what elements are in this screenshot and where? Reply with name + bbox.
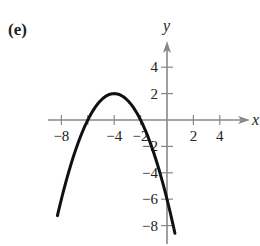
axes: xy <box>48 17 259 244</box>
parabola-plot: xy −8−4−22442−2−4−6−8 <box>0 0 260 246</box>
x-tick-label: 4 <box>216 128 224 144</box>
ticks <box>61 67 219 225</box>
y-tick-label: −4 <box>142 165 158 181</box>
x-tick-label: −4 <box>106 128 122 144</box>
x-tick-label: 2 <box>190 128 198 144</box>
parabola-curve <box>57 94 174 234</box>
y-tick-label: −8 <box>142 218 158 234</box>
y-axis-label: y <box>161 17 171 35</box>
y-tick-label: −6 <box>142 191 158 207</box>
x-axis-label: x <box>251 111 259 128</box>
y-tick-label: 2 <box>151 86 159 102</box>
y-tick-label: 4 <box>151 59 159 75</box>
tick-labels: −8−4−22442−2−4−6−8 <box>53 59 224 233</box>
x-tick-label: −8 <box>53 128 69 144</box>
